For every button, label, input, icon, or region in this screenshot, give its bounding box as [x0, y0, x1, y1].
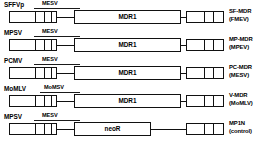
ltr-3-prime	[186, 11, 224, 23]
ltr-segment-u5	[214, 12, 223, 22]
ltr-segment-u5	[214, 124, 223, 134]
ltr-segment-r	[205, 124, 214, 134]
construct-backbone: (FMEV)	[229, 15, 265, 23]
construct-backbone: (MESV)	[229, 71, 265, 79]
construct-backbone: (control)	[229, 127, 265, 135]
ltr-5-prime	[9, 39, 57, 51]
ltr-segment-r	[36, 124, 45, 134]
promoter-label: MPSV	[4, 29, 22, 37]
ltr-segment-u5	[45, 40, 52, 50]
construct-name-label: V-MDR (MoMLV)	[229, 91, 265, 107]
construct-name: MP1N	[229, 120, 245, 126]
ltr-segment-u3	[187, 68, 205, 78]
ltr-5-prime	[9, 123, 57, 135]
promoter-label: SFFVp	[4, 1, 24, 9]
ltr-segment-r	[205, 96, 214, 106]
construct-name: PC-MDR	[229, 64, 252, 70]
gene-label: MDR1	[119, 97, 137, 105]
ltr-segment-u5	[214, 40, 223, 50]
ltr-segment-u5	[214, 68, 223, 78]
enhancer-label: MESV	[42, 0, 58, 7]
ltr-segment-tail	[52, 68, 56, 78]
ltr-segment-u3	[187, 96, 205, 106]
ltr-3-prime	[186, 95, 224, 107]
connector-left	[57, 17, 74, 19]
vector-construct-diagram: SFFVp MESV MDR1 SF-MDR (FMEV) MPSV	[0, 0, 265, 153]
enhancer-label: MESV	[42, 28, 58, 35]
enhancer-label: MESV	[42, 112, 58, 119]
enhancer-bracket-line	[40, 92, 80, 93]
construct-backbone: (MPEV)	[229, 43, 265, 51]
ltr-segment-u5	[45, 124, 52, 134]
connector-left	[57, 45, 74, 47]
construct-name-label: MP1N (control)	[229, 119, 265, 135]
ltr-segment-r	[36, 40, 45, 50]
promoter-label: PCMV	[4, 57, 22, 65]
ltr-segment-u5	[45, 96, 52, 106]
ltr-segment-tail	[52, 124, 56, 134]
gene-label: MDR1	[119, 41, 137, 49]
construct-row: MPSV MESV MDR1 MP-MDR (MPEV)	[0, 28, 265, 58]
connector-left	[57, 129, 74, 131]
ltr-segment-u5	[45, 68, 52, 78]
gene-cassette: MDR1	[74, 66, 181, 80]
enhancer-bracket-line	[34, 120, 80, 121]
construct-name: MP-MDR	[229, 36, 253, 42]
construct-row: MPSV MESV neoR MP1N (control)	[0, 112, 265, 142]
ltr-5-prime	[9, 11, 57, 23]
gene-label: neoR	[105, 125, 121, 133]
ltr-segment-r	[36, 68, 45, 78]
gene-cassette: MDR1	[74, 94, 181, 108]
gene-label: MDR1	[119, 13, 137, 21]
ltr-segment-u3	[10, 40, 36, 50]
construct-row: SFFVp MESV MDR1 SF-MDR (FMEV)	[0, 0, 265, 30]
promoter-label: MoMLV	[4, 85, 26, 93]
enhancer-label: MoMSV	[44, 84, 64, 91]
ltr-3-prime	[186, 67, 224, 79]
ltr-segment-u3	[187, 12, 205, 22]
enhancer-bracket-line	[34, 36, 80, 37]
ltr-segment-u3	[187, 124, 205, 134]
enhancer-bracket-line	[34, 8, 80, 9]
ltr-segment-u3	[10, 68, 36, 78]
ltr-segment-u3	[187, 40, 205, 50]
ltr-segment-u3	[10, 124, 36, 134]
enhancer-label: MESV	[42, 56, 58, 63]
ltr-segment-r	[205, 68, 214, 78]
construct-name-label: SF-MDR (FMEV)	[229, 7, 265, 23]
ltr-5-prime	[9, 95, 57, 107]
construct-row: MoMLV MoMSV MDR1 V-MDR (MoMLV)	[0, 84, 265, 114]
ltr-segment-tail	[52, 96, 56, 106]
connector-left	[57, 101, 74, 103]
ltr-segment-r	[36, 12, 45, 22]
ltr-segment-r	[36, 96, 45, 106]
ltr-3-prime	[186, 123, 224, 135]
gene-label: MDR1	[119, 69, 137, 77]
connector-left	[57, 73, 74, 75]
connector-right	[150, 129, 187, 130]
enhancer-bracket-line	[34, 64, 80, 65]
construct-name: V-MDR	[229, 92, 247, 98]
ltr-segment-r	[205, 40, 214, 50]
construct-name-label: PC-MDR (MESV)	[229, 63, 265, 79]
ltr-segment-u3	[10, 12, 36, 22]
construct-backbone: (MoMLV)	[229, 99, 265, 107]
ltr-segment-u5	[45, 12, 52, 22]
promoter-label: MPSV	[4, 113, 22, 121]
gene-cassette: MDR1	[74, 10, 181, 24]
gene-cassette: MDR1	[74, 38, 181, 52]
construct-name: SF-MDR	[229, 8, 251, 14]
ltr-segment-tail	[52, 40, 56, 50]
construct-row: PCMV MESV MDR1 PC-MDR (MESV)	[0, 56, 265, 86]
construct-name-label: MP-MDR (MPEV)	[229, 35, 265, 51]
ltr-5-prime	[9, 67, 57, 79]
gene-cassette: neoR	[74, 122, 151, 136]
ltr-segment-r	[205, 12, 214, 22]
ltr-segment-tail	[52, 12, 56, 22]
ltr-segment-u5	[214, 96, 223, 106]
ltr-segment-u3	[10, 96, 36, 106]
ltr-3-prime	[186, 39, 224, 51]
